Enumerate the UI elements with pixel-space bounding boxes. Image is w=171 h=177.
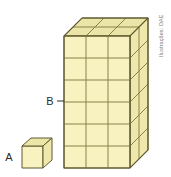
unit-cube-solid (22, 138, 52, 168)
solids-illustration: A (0, 0, 171, 177)
prism-solid (64, 18, 148, 168)
geometry-figure: A (0, 0, 171, 177)
unit-cube-front-face (22, 146, 43, 168)
label-a: A (5, 151, 13, 163)
illustration-credit: Ilustrações: DAE (158, 14, 164, 57)
label-b: B (46, 95, 53, 107)
